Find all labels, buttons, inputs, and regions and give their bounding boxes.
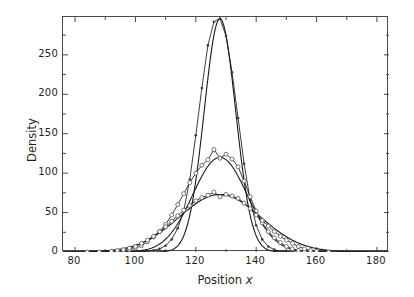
x-axis-title-text: Position — [197, 273, 242, 287]
plot-area — [62, 16, 388, 251]
x-tick-label: 140 — [235, 256, 275, 266]
x-axis-tick-labels: 80100120140160180 — [62, 256, 388, 270]
x-axis-title-variable: x — [246, 273, 253, 287]
x-axis-title: Position x — [62, 273, 388, 287]
density-chart-figure: 050100150200250 80100120140160180 Positi… — [0, 0, 414, 297]
y-axis-title: Density — [25, 80, 39, 200]
x-tick-label: 180 — [356, 256, 396, 266]
x-tick-label: 120 — [175, 256, 215, 266]
y-axis-title-wrap: Density — [8, 12, 34, 247]
x-tick-label: 100 — [114, 256, 154, 266]
x-tick-label: 80 — [54, 256, 94, 266]
y-tick-label: 0 — [22, 246, 58, 256]
x-tick-label: 160 — [296, 256, 336, 266]
plot-svg — [63, 17, 389, 252]
